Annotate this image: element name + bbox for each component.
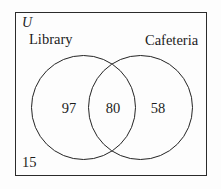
set-label-library: Library bbox=[29, 32, 72, 47]
set-label-cafeteria: Cafeteria bbox=[145, 33, 198, 48]
region-value-neither: 15 bbox=[22, 155, 48, 170]
universal-set-label: U bbox=[22, 16, 32, 30]
venn-diagram: U Library Cafeteria 97 80 58 15 bbox=[0, 0, 221, 189]
region-value-library-only: 97 bbox=[54, 101, 84, 116]
region-value-both: 80 bbox=[98, 101, 128, 116]
region-value-cafeteria-only: 58 bbox=[143, 101, 173, 116]
